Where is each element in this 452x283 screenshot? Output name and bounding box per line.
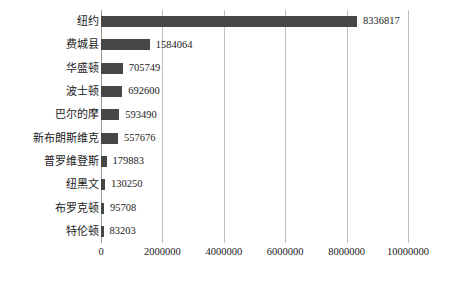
plot-area: 8336817158406470574969260059349055767617… — [101, 10, 408, 243]
bar — [101, 63, 123, 74]
bar — [101, 86, 122, 97]
bar-chart: 纽约费城县华盛顿波士顿巴尔的摩新布朗斯维克普罗维登斯纽黑文布罗克顿特伦顿 833… — [0, 0, 452, 283]
category-label: 巴尔的摩 — [3, 103, 99, 126]
bar-row: 557676 — [101, 127, 408, 150]
bar-value-label: 593490 — [125, 110, 157, 121]
category-label: 纽黑文 — [3, 173, 99, 196]
bar-value-label: 692600 — [128, 86, 160, 97]
category-label: 布罗克顿 — [3, 196, 99, 219]
bar-value-label: 8336817 — [363, 16, 400, 27]
gridline — [408, 10, 409, 243]
bar-value-label: 557676 — [124, 133, 156, 144]
bar — [101, 109, 119, 120]
bar-row: 83203 — [101, 220, 408, 243]
bar — [101, 16, 357, 27]
category-label: 特伦顿 — [3, 220, 99, 243]
bar — [101, 39, 150, 50]
category-label: 费城县 — [3, 33, 99, 56]
bar-row: 8336817 — [101, 10, 408, 33]
category-label: 华盛顿 — [3, 57, 99, 80]
bar-value-label: 95708 — [110, 203, 136, 214]
x-tick-label: 2000000 — [144, 247, 181, 258]
bar-value-label: 130250 — [111, 179, 143, 190]
bar-row: 95708 — [101, 196, 408, 219]
bar — [101, 156, 107, 167]
bar — [101, 226, 104, 237]
category-label: 新布朗斯维克 — [3, 127, 99, 150]
bar-row: 593490 — [101, 103, 408, 126]
category-axis: 纽约费城县华盛顿波士顿巴尔的摩新布朗斯维克普罗维登斯纽黑文布罗克顿特伦顿 — [0, 10, 99, 243]
bar — [101, 133, 118, 144]
category-label: 普罗维登斯 — [3, 150, 99, 173]
bar-value-label: 705749 — [129, 63, 161, 74]
bar-row: 130250 — [101, 173, 408, 196]
category-label: 波士顿 — [3, 80, 99, 103]
bar-row: 692600 — [101, 80, 408, 103]
bar — [101, 203, 104, 214]
x-tick-label: 10000000 — [387, 247, 429, 258]
x-tick-label: 6000000 — [267, 247, 304, 258]
x-axis-tick-labels: 0200000040000006000000800000010000000 — [0, 247, 452, 265]
bar-row: 179883 — [101, 150, 408, 173]
x-tick-label: 8000000 — [328, 247, 365, 258]
x-tick-label: 0 — [98, 247, 103, 258]
bar-value-label: 179883 — [113, 156, 145, 167]
bar — [101, 179, 105, 190]
category-label: 纽约 — [3, 10, 99, 33]
bar-row: 705749 — [101, 57, 408, 80]
x-tick-label: 4000000 — [205, 247, 242, 258]
bar-row: 1584064 — [101, 33, 408, 56]
bar-value-label: 83203 — [110, 226, 136, 237]
bar-value-label: 1584064 — [156, 40, 193, 51]
